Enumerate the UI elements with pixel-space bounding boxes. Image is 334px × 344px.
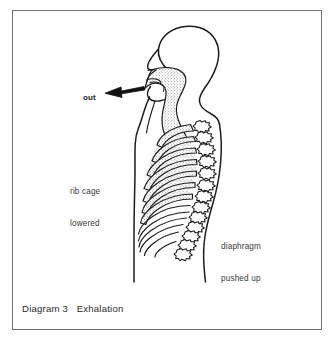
diagram-page: out rib cage lowered diaphragm pushed up… [0,0,334,344]
label-diaphragm-line1: diaphragm [221,242,261,253]
label-diaphragm-line2: pushed up [221,274,261,285]
label-rib-cage-line1: rib cage [70,187,100,198]
label-diaphragm: diaphragm pushed up [221,221,261,305]
diagram-frame [12,10,322,330]
label-rib-cage: rib cage lowered [70,166,100,250]
label-out: out [83,93,96,104]
label-rib-cage-line2: lowered [70,219,100,230]
figure-caption: Diagram 3 Exhalation [22,303,123,314]
